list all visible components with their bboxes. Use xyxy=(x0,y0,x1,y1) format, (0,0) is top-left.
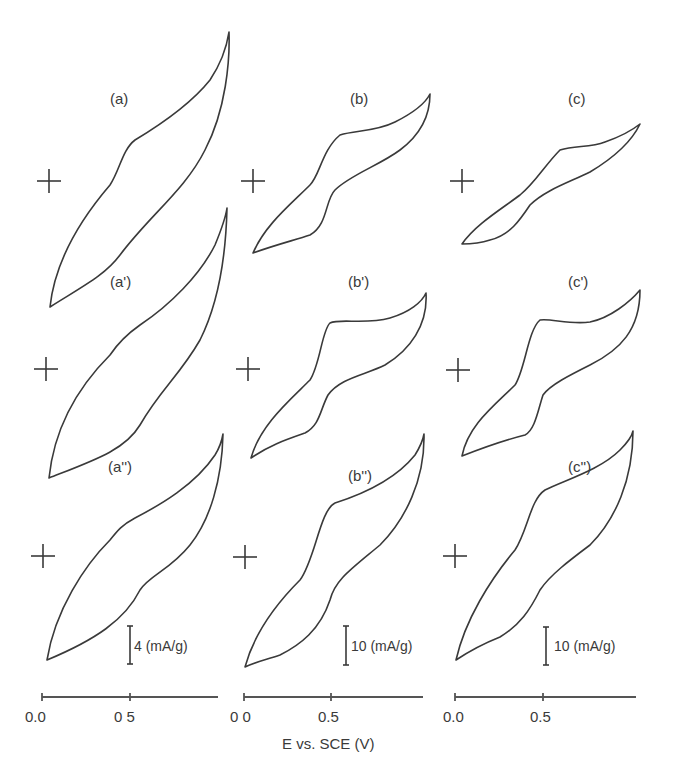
panel-b-double-prime: (b'') 10 (mA/g) xyxy=(233,434,424,667)
scale-bar-b xyxy=(343,626,349,665)
zero-marker-a xyxy=(37,169,61,193)
panel-c-double-prime: (c'') 10 (mA/g) xyxy=(443,431,633,665)
panel-label-b-double-prime: (b'') xyxy=(348,467,372,484)
x-axis-c: 0.0 0.5 xyxy=(443,693,636,725)
panel-label-b: (b) xyxy=(350,90,368,107)
panel-b: (b) xyxy=(241,90,430,253)
x-axis-b: 0 0 0.5 xyxy=(230,693,423,725)
panel-c: (c) xyxy=(450,90,640,244)
zero-marker-b-prime xyxy=(236,357,260,381)
panel-a-prime: (a') xyxy=(34,208,227,478)
x-tick-label: 0 5 xyxy=(114,708,135,725)
x-tick-label: 0.5 xyxy=(318,708,339,725)
panel-label-a-prime: (a') xyxy=(110,273,131,290)
zero-marker-a-double-prime xyxy=(31,544,55,568)
zero-marker-b-double-prime xyxy=(233,545,257,569)
cv-loop-c xyxy=(462,124,640,244)
panel-c-prime: (c') xyxy=(446,273,640,456)
scale-bar-c xyxy=(543,627,549,665)
x-axis-title: E vs. SCE (V) xyxy=(282,735,375,752)
panel-label-a: (a) xyxy=(110,90,128,107)
scale-bar-a xyxy=(127,626,133,664)
panel-a: (a) xyxy=(37,32,229,307)
panel-b-prime: (b') xyxy=(236,273,426,458)
panel-label-c-double-prime: (c'') xyxy=(568,458,591,475)
scale-bar-label-c: 10 (mA/g) xyxy=(554,638,615,654)
cv-loop-b-prime xyxy=(251,293,426,458)
zero-marker-c xyxy=(450,169,474,193)
cv-loop-c-double-prime xyxy=(456,431,633,660)
panel-label-c-prime: (c') xyxy=(568,273,588,290)
cv-loop-b-double-prime xyxy=(245,434,424,667)
zero-marker-b xyxy=(241,169,265,193)
zero-marker-a-prime xyxy=(34,357,58,381)
x-tick-label: 0.0 xyxy=(25,708,46,725)
cv-loop-c-prime xyxy=(462,290,640,456)
panel-label-a-double-prime: (a'') xyxy=(108,458,132,475)
x-tick-label: 0.5 xyxy=(530,708,551,725)
cv-loop-a-prime xyxy=(49,208,227,478)
x-tick-label: 0 0 xyxy=(230,708,251,725)
cv-loop-b xyxy=(253,94,430,253)
zero-marker-c-prime xyxy=(446,358,470,382)
zero-marker-c-double-prime xyxy=(443,544,467,568)
scale-bar-label-b: 10 (mA/g) xyxy=(351,638,412,654)
x-axis-a: 0.0 0 5 xyxy=(25,693,218,725)
panel-a-double-prime: (a'') 4 (mA/g) xyxy=(31,434,223,664)
cv-figure: (a) (a') (a'') 4 (mA/g) (b) (b') xyxy=(0,0,673,780)
scale-bar-label-a: 4 (mA/g) xyxy=(134,638,188,654)
x-tick-label: 0.0 xyxy=(443,708,464,725)
panel-label-b-prime: (b') xyxy=(348,273,369,290)
panel-label-c: (c) xyxy=(568,90,586,107)
